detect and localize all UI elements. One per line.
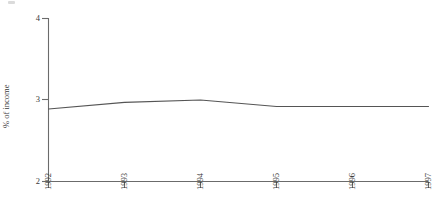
y-axis-title: % of income xyxy=(2,85,11,128)
x-tick-label-1993: 1993 xyxy=(120,173,129,190)
y-tick-label-3: 3 xyxy=(24,95,40,104)
x-tick-label-1994: 1994 xyxy=(196,173,205,190)
x-tick-label-1995: 1995 xyxy=(272,173,281,190)
x-tick-label-1992: 1992 xyxy=(44,173,53,190)
y-tick-label-2: 2 xyxy=(24,177,40,186)
x-tick-label-1997: 1997 xyxy=(424,173,433,190)
x-tick-label-1996: 1996 xyxy=(348,173,357,190)
y-tick-label-4: 4 xyxy=(24,14,40,23)
data-series-line xyxy=(49,100,429,109)
chart-page: 4 3 2 % of income 1992 1993 1994 1995 19… xyxy=(0,0,439,221)
chart-canvas xyxy=(0,0,439,221)
line-chart: 4 3 2 % of income 1992 1993 1994 1995 19… xyxy=(0,0,439,221)
